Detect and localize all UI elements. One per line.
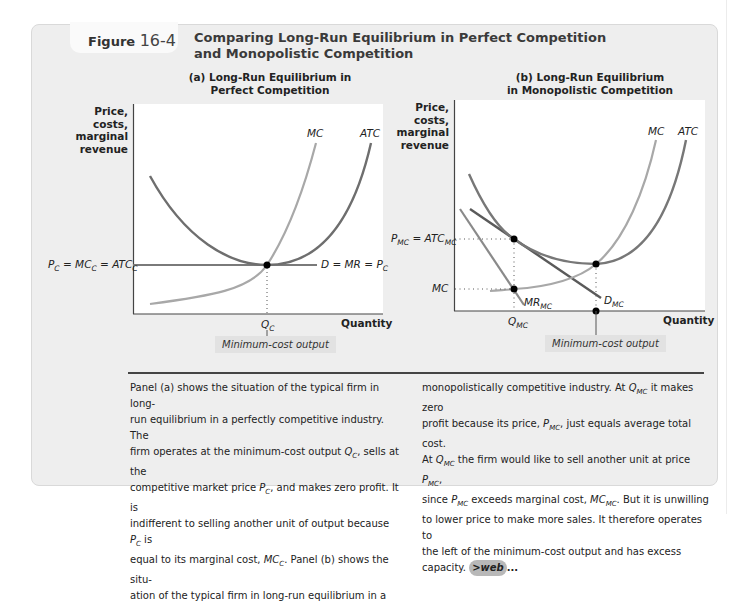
panel-b-mr-label: MRMC xyxy=(524,296,552,311)
panel-a-q-label: QC xyxy=(261,318,275,333)
caption-line: run equilibrium in a perfectly competiti… xyxy=(130,412,400,444)
caption-line: firm operates at the minimum-cost output… xyxy=(130,444,400,480)
panel-b-mc-curve xyxy=(490,140,656,291)
caption-line: competitive market price PC, and makes z… xyxy=(130,480,400,516)
caption-line: Panel (a) shows the situation of the typ… xyxy=(130,380,400,412)
panel-b-q-label: QMC xyxy=(508,315,528,330)
mr-label-sub: MC xyxy=(540,302,552,311)
panel-b-mr-mc-dot xyxy=(511,286,518,293)
panel-b-atc-curve xyxy=(469,140,686,264)
panel-b-tangency-dot xyxy=(511,236,518,243)
caption-line: since PMC exceeds marginal cost, MCMC. B… xyxy=(422,492,712,512)
panel-a-minimum-cost-output-label: Minimum-cost output xyxy=(215,336,336,353)
panel-b-x-axis-label: Quantity xyxy=(663,314,714,326)
caption-divider xyxy=(128,372,704,374)
panel-b-atc-min-dot xyxy=(593,261,600,268)
panel-b-atc-label: ATC xyxy=(678,125,698,137)
d-label-sub: MC xyxy=(612,300,624,309)
panel-a-mc-curve xyxy=(150,143,316,304)
panel-b-mc-tick-label: MC xyxy=(432,282,448,294)
panel-a-x-axis-label: Quantity xyxy=(341,317,392,329)
panel-a-demand-label: D = MR = PC xyxy=(321,258,388,273)
caption-line: ation of the typical firm in long-run eq… xyxy=(130,588,400,604)
q-label-sub: MC xyxy=(516,321,528,330)
q-label-sub: C xyxy=(269,324,274,333)
caption-line: indifferent to selling another unit of o… xyxy=(130,516,400,552)
panel-b-demand-label: DMC xyxy=(604,294,624,309)
mr-label-text: MR xyxy=(524,296,540,308)
caption-line: profit because its price, PMC, just equa… xyxy=(422,416,712,452)
caption-line: to lower price to make more sales. It th… xyxy=(422,512,712,544)
d-label-text: D xyxy=(604,294,612,306)
panel-b-mc-label: MC xyxy=(648,125,664,137)
panel-b-price-label: PMC = ATCMC xyxy=(391,232,456,247)
panel-a-atc-label: ATC xyxy=(360,127,380,139)
panel-a-atc-curve xyxy=(150,143,371,265)
caption-line: equal to its marginal cost, MCC. Panel (… xyxy=(130,552,400,588)
caption-right: monopolistically competitive industry. A… xyxy=(422,380,712,576)
web-link[interactable]: >web xyxy=(469,560,507,576)
demand-label-text: D = MR = P xyxy=(321,258,383,270)
panel-a-equilibrium-dot xyxy=(264,262,271,269)
caption-line: capacity. >web... xyxy=(422,560,712,576)
caption-line: the left of the minimum-cost output and … xyxy=(422,544,712,560)
panel-b-minimum-cost-output-label: Minimum-cost output xyxy=(545,335,666,352)
caption-left: Panel (a) shows the situation of the typ… xyxy=(130,380,400,604)
caption-line: monopolistically competitive industry. A… xyxy=(422,380,712,416)
panel-a-price-label: PC = MCC = ATCC xyxy=(48,258,138,273)
demand-label-sub: C xyxy=(383,264,388,273)
caption-line: At QMC the firm would like to sell anoth… xyxy=(422,452,712,492)
panel-a-mc-label: MC xyxy=(307,127,323,139)
web-link-ellipsis: ... xyxy=(507,562,518,573)
caption-last-text: capacity. xyxy=(422,562,466,573)
